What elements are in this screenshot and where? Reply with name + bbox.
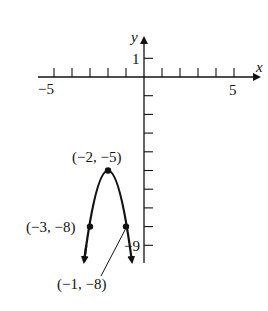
left-point: [87, 223, 93, 229]
right-point-label: (−1, −8): [57, 276, 106, 293]
x-tick-label-max: 5: [229, 82, 237, 98]
y-axis-label: y: [129, 29, 138, 45]
y-ticks: [144, 58, 153, 245]
right-point: [123, 223, 129, 229]
parabola-left-arrow: [84, 245, 86, 262]
right-point-leader: [101, 230, 125, 276]
vertex-point: [105, 167, 111, 173]
parabola-graph: y x −5 5 1 −9 (−2, −5) (−3, −8) (−1, −8): [0, 0, 268, 311]
x-axis-label: x: [255, 59, 263, 75]
vertex-label: (−2, −5): [72, 149, 121, 166]
left-point-label: (−3, −8): [26, 219, 75, 236]
y-tick-label-neg-nine: −9: [124, 238, 140, 254]
x-tick-label-min: −5: [38, 81, 54, 97]
y-tick-label-one: 1: [132, 51, 140, 67]
